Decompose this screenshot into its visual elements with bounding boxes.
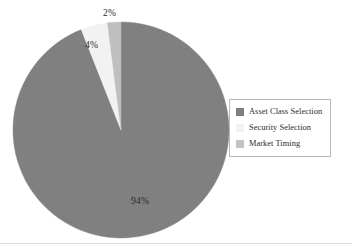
legend-swatch-icon-security-selection: [236, 124, 244, 132]
chart-legend: Asset Class Selection Security Selection…: [229, 99, 331, 157]
legend-swatch-icon-asset-class-selection: [236, 108, 244, 116]
pie-label-asset-class-selection: 94%: [131, 197, 149, 207]
pie-chart-svg: [12, 21, 230, 239]
legend-swatch-icon-market-timing: [236, 140, 244, 148]
legend-label-market-timing: Market Timing: [249, 140, 300, 148]
legend-label-security-selection: Security Selection: [249, 124, 311, 132]
legend-item-asset-class-selection[interactable]: Asset Class Selection: [236, 105, 325, 119]
legend-item-security-selection[interactable]: Security Selection: [236, 121, 325, 135]
pie-chart-plot-area: [12, 21, 230, 239]
legend-item-market-timing[interactable]: Market Timing: [236, 137, 325, 151]
legend-label-asset-class-selection: Asset Class Selection: [249, 108, 322, 116]
pie-label-market-timing: 2%: [103, 9, 116, 19]
figure-bottom-rule: [0, 243, 352, 244]
pie-label-security-selection: 4%: [85, 41, 98, 51]
pie-chart-figure: 2% 4% 94% Asset Class Selection Security…: [0, 0, 352, 249]
